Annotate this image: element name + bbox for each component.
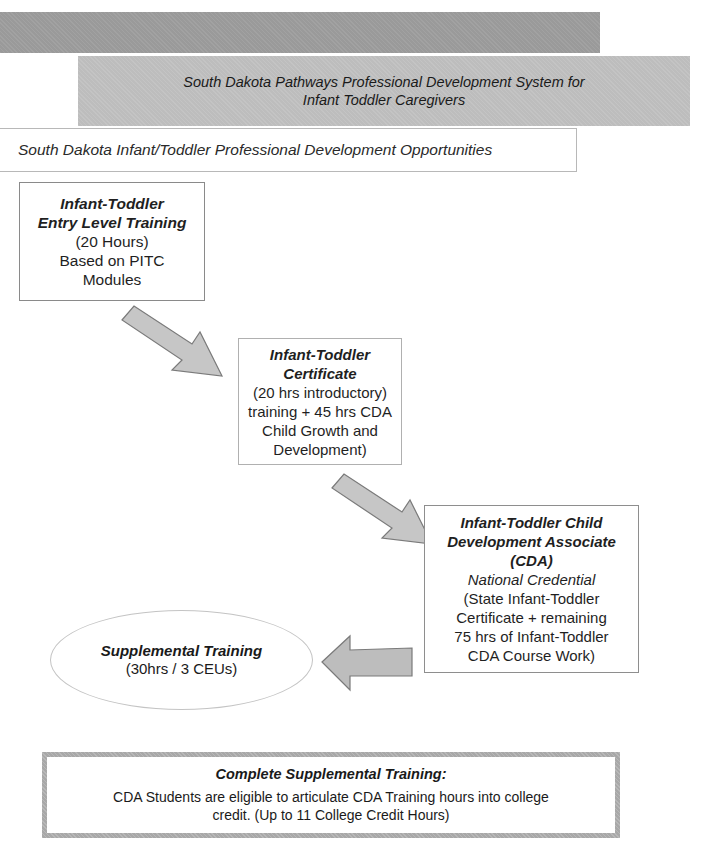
step-detail: (State Infant-Toddler [464, 589, 600, 608]
supplemental-detail: (30hrs / 3 CEUs) [126, 660, 238, 678]
completion-box: Complete Supplemental Training: CDA Stud… [42, 752, 620, 838]
step-title: Infant-Toddler [270, 345, 370, 364]
step-title: Development Associate [447, 532, 616, 551]
step-entry-level-training: Infant-Toddler Entry Level Training (20 … [19, 182, 205, 301]
step-title: Infant-Toddler Child [461, 513, 603, 532]
title-line-1: South Dakota Pathways Professional Devel… [134, 73, 634, 91]
supplemental-title: Supplemental Training [101, 642, 262, 660]
header-band-dark [0, 12, 600, 53]
completion-heading: Complete Supplemental Training: [216, 766, 447, 782]
supplemental-training: Supplemental Training (30hrs / 3 CEUs) [50, 610, 313, 710]
step-detail: (20 hrs introductory) [253, 383, 387, 402]
step-detail: training + 45 hrs CDA [248, 402, 392, 421]
step-title: Entry Level Training [38, 213, 187, 232]
step-cda-credential: Infant-Toddler Child Development Associa… [424, 505, 639, 673]
step-detail: Certificate + remaining [456, 608, 606, 627]
arrow-down-right-icon [118, 302, 230, 384]
step-title: Infant-Toddler [60, 194, 164, 213]
step-credential-type: National Credential [468, 570, 596, 589]
step-detail: Child Growth and [262, 421, 378, 440]
step-detail: (20 Hours) [75, 232, 148, 251]
step-infant-toddler-certificate: Infant-Toddler Certificate (20 hrs intro… [238, 338, 402, 465]
subtitle: South Dakota Infant/Toddler Professional… [18, 141, 492, 159]
title-line-2: Infant Toddler Caregivers [134, 91, 634, 109]
step-detail: CDA Course Work) [468, 646, 595, 665]
step-detail: 75 hrs of Infant-Toddler [454, 627, 608, 646]
step-detail: Development) [273, 440, 366, 459]
completion-body: CDA Students are eligible to articulate … [96, 788, 566, 824]
diagram-title: South Dakota Pathways Professional Devel… [134, 73, 634, 109]
arrow-left-icon [320, 634, 416, 692]
header-band: South Dakota Pathways Professional Devel… [78, 56, 690, 126]
step-detail: Based on PITC [59, 251, 164, 270]
step-title: (CDA) [510, 551, 553, 570]
subtitle-box: South Dakota Infant/Toddler Professional… [0, 128, 577, 172]
step-detail: Modules [83, 270, 142, 289]
step-title: Certificate [283, 364, 356, 383]
